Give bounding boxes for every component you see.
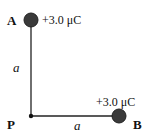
charge-a-icon [24,13,38,27]
charge-a-value: +3.0 μC [42,14,81,26]
point-b-label: B [133,118,142,131]
point-p-icon [29,114,33,118]
distance-pb-label: a [74,119,81,132]
point-p-label: P [7,118,15,131]
charge-b-icon [112,109,126,123]
charge-b-value: +3.0 μC [96,96,135,108]
distance-pa-label: a [13,61,20,74]
point-a-label: A [7,14,16,27]
